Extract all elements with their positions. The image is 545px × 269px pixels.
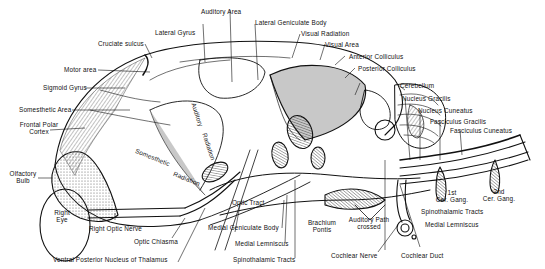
label-medial-lemniscus-right: Medial Lemniscus (425, 221, 479, 228)
label-posterior-colliculus: Posterior Colliculus (358, 65, 416, 72)
label-fasciculus-gracilis: Fasciculus Gracilis (430, 118, 486, 125)
brachium-pontis (325, 189, 385, 209)
label-frontal-polar-cortex: Frontal Polar Cortex (14, 121, 64, 135)
label-spinothalamic-tracts-right: Spinothalamic Tracts (421, 208, 483, 215)
label-auditory-area: Auditory Area (201, 8, 241, 15)
label-cerebellum: Cerebellum (400, 82, 434, 89)
label-nucleus-cuneatus: Nucleus Cuneatus (418, 107, 473, 114)
label-fasciculus-cuneatus: Fasciculus Cuneatus (450, 127, 512, 134)
label-cruciate-sulcus: Cruciate sulcus (98, 40, 144, 47)
label-anterior-colliculus: Anterior Colliculus (349, 53, 403, 60)
label-lateral-geniculate-body: Lateral Geniculate Body (255, 19, 327, 26)
label-auditory-path-crossed: Auditory Path crossed (344, 216, 394, 230)
label-nucleus-gracilis: Nucleus Gracilis (402, 95, 451, 102)
spinal-cord (400, 135, 520, 160)
label-lateral-gyrus: Lateral Gyrus (155, 29, 195, 36)
brain-pathway-diagram: Cruciate sulcus Lateral Gyrus Auditory A… (0, 0, 545, 269)
label-second-cervical-ganglion: 2nd Cer. Gang. (480, 188, 518, 202)
label-visual-radiation: Visual Radiation (301, 30, 349, 37)
label-first-cervical-ganglion: 1st Cer. Gang. (433, 189, 471, 203)
label-right-eye: Right Eye (50, 209, 74, 223)
label-brachium-pontis: Brachium Pontis (305, 219, 339, 233)
label-somesthetic-area: Somesthetic Area (19, 106, 72, 113)
label-right-optic-nerve: Right Optic Nerve (89, 225, 142, 232)
label-cochlear-nerve: Cochlear Nerve (331, 252, 378, 259)
label-sigmoid-gyrus: Sigmoid Gyrus (43, 84, 87, 91)
label-ventral-posterior-nucleus: Ventral Posterior Nucleus of Thalamus (53, 256, 167, 263)
label-medial-geniculate-body: Medial Geniculate Body (208, 224, 279, 231)
label-medial-lemniscus-center: Medial Lemniscus (235, 240, 289, 247)
visual-radiation (270, 65, 366, 140)
label-optic-tract: Optic Tract (232, 199, 265, 206)
cochlea (397, 220, 413, 236)
label-spinothalamic-tracts-center: Spinothalamic Tracts (233, 256, 295, 263)
label-cochlear-duct: Cochlear Duct (401, 252, 443, 259)
label-motor-area: Motor area (64, 66, 96, 73)
label-olfactory-bulb: Olfactory Bulb (6, 170, 40, 184)
label-visual-area: Visual Area (325, 41, 359, 48)
label-optic-chiasma: Optic Chiasma (134, 238, 178, 245)
